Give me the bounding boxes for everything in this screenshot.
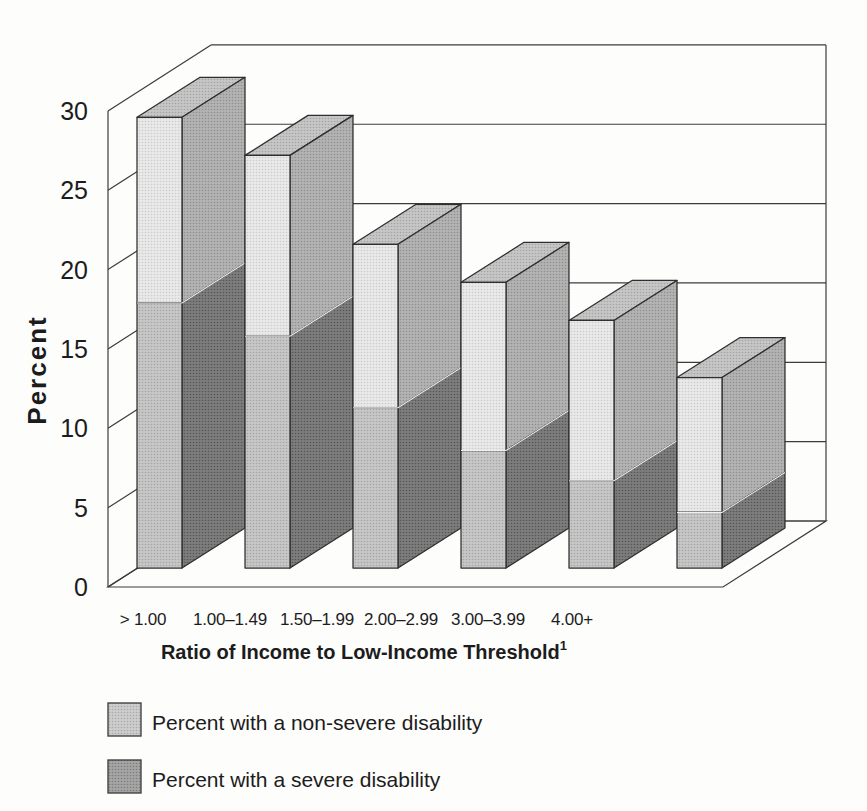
y-tick-label: 25 (60, 176, 88, 204)
bar-front-severe (461, 451, 506, 568)
y-tick-label: 5 (74, 494, 88, 522)
bar-group-2 (353, 204, 461, 568)
disability-by-income-3d-stacked-bar-chart: 051015202530> 1.001.00–1.491.50–1.992.00… (0, 0, 867, 811)
x-tick-label: > 1.00 (120, 610, 167, 629)
x-tick-label: 4.00+ (551, 610, 593, 629)
legend-swatch-severe (108, 760, 141, 793)
bar-front-severe (245, 336, 290, 568)
x-axis-title: Ratio of Income to Low-Income Threshold1 (161, 638, 567, 663)
bar-group-5 (677, 338, 785, 568)
bar-front-non-severe (245, 155, 290, 336)
bar-front-severe (137, 303, 182, 568)
legend-label: Percent with a non-severe disability (152, 711, 483, 734)
legend-item-non-severe: Percent with a non-severe disability (108, 703, 483, 736)
bar-front-non-severe (461, 282, 506, 450)
x-tick-label: 1.00–1.49 (193, 610, 267, 629)
y-tick-label: 15 (60, 335, 88, 363)
bar-group-3 (461, 242, 569, 568)
bar-group-4 (569, 280, 677, 568)
y-tick-label: 20 (60, 256, 88, 284)
bar-front-non-severe (353, 244, 398, 407)
x-axis-title-text: Ratio of Income to Low-Income Threshold (161, 641, 560, 663)
legend-item-severe: Percent with a severe disability (108, 760, 441, 793)
x-axis-title-footnote: 1 (560, 638, 567, 653)
x-tick-label: 2.00–2.99 (364, 610, 438, 629)
y-axis-title: Percent (22, 315, 52, 424)
bar-group-1 (245, 115, 353, 568)
bar-group-0 (137, 77, 245, 568)
bar-front-severe (569, 481, 614, 568)
bar-side-severe (182, 263, 245, 568)
x-tick-label: 1.50–1.99 (280, 610, 354, 629)
bar-front-severe (353, 408, 398, 568)
x-tick-label: 3.00–3.99 (451, 610, 525, 629)
y-tick-label: 0 (74, 573, 88, 601)
legend-swatch-non-severe (108, 703, 141, 736)
bar-front-non-severe (677, 378, 722, 513)
bar-front-non-severe (569, 320, 614, 480)
bar-front-severe (677, 512, 722, 568)
y-tick-label: 30 (60, 97, 88, 125)
bar-side-severe (290, 296, 353, 568)
y-tick-label: 10 (60, 414, 88, 442)
bar-front-non-severe (137, 117, 182, 303)
legend-label: Percent with a severe disability (152, 768, 441, 791)
report-figure-page: 051015202530> 1.001.00–1.491.50–1.992.00… (0, 0, 867, 811)
